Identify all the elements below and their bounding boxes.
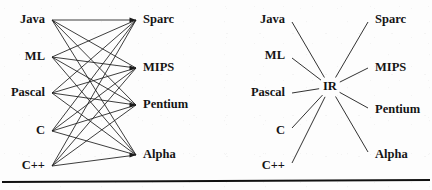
edge-Pascal-to-IR (292, 89, 319, 93)
edge-ML-to-Pentium (52, 57, 136, 105)
edge-ML-to-Sparc (52, 20, 136, 57)
source-label-ir-ml: ML (265, 49, 285, 62)
edge-IR-to-Pentium (340, 92, 368, 108)
edge-C-to-MIPS (52, 68, 136, 131)
source-label-cpp: C++ (22, 159, 45, 172)
source-label-java: Java (20, 13, 45, 26)
target-label-ir-alpha: Alpha (375, 148, 408, 161)
edge-C-to-Pentium (52, 105, 136, 131)
source-label-c: C (36, 124, 45, 137)
source-label-ir-cpp: C++ (262, 159, 285, 172)
target-label-pentium: Pentium (143, 98, 188, 111)
edge-arrowheads (130, 18, 137, 158)
edge-ML-to-MIPS (52, 57, 136, 68)
target-label-ir-sparc: Sparc (375, 13, 406, 26)
source-label-ir-java: Java (260, 13, 285, 26)
edge-ML-to-IR (292, 58, 321, 80)
edge-C++-to-Sparc (52, 20, 136, 166)
edge-Java-to-MIPS (52, 20, 136, 68)
target-label-ir-mips: MIPS (375, 61, 406, 74)
source-label-ml: ML (25, 50, 45, 63)
edge-Java-to-IR (292, 22, 324, 78)
edge-Pascal-to-Alpha (52, 93, 136, 155)
edge-IR-to-Sparc (336, 22, 368, 78)
edge-IR-to-MIPS (340, 68, 368, 82)
left-diagram-edges (52, 20, 136, 166)
figure-edges (0, 0, 432, 190)
target-label-mips: MIPS (143, 61, 174, 74)
figure-page: JavaMLPascalCC++SparcMIPSPentiumAlpha Ja… (0, 0, 432, 190)
ir-node-label: IR (321, 79, 339, 94)
source-label-pascal: Pascal (11, 86, 45, 99)
target-label-ir-pentium: Pentium (375, 103, 420, 116)
source-label-ir-c: C (276, 124, 285, 137)
source-label-ir-pascal: Pascal (251, 86, 285, 99)
edge-C++-to-IR (292, 97, 325, 163)
target-label-sparc: Sparc (143, 13, 174, 26)
target-label-alpha: Alpha (143, 148, 176, 161)
